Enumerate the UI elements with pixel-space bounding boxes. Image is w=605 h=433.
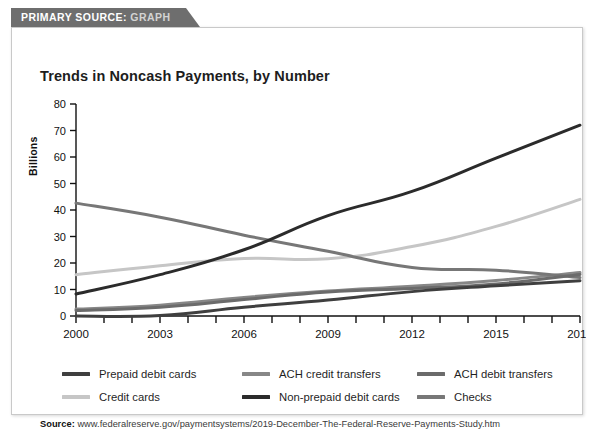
svg-text:10: 10 bbox=[54, 284, 66, 296]
legend-label-non-prepaid-debit-cards: Non-prepaid debit cards bbox=[279, 391, 400, 403]
line-chart: 0102030405060708020002003200620092012201… bbox=[34, 90, 586, 352]
legend-label-checks: Checks bbox=[454, 391, 492, 403]
svg-text:2000: 2000 bbox=[63, 328, 89, 340]
svg-text:2018: 2018 bbox=[567, 328, 586, 340]
svg-text:30: 30 bbox=[54, 231, 66, 243]
chart-plot-area: 0102030405060708020002003200620092012201… bbox=[34, 90, 586, 352]
legend-swatch-ach-debit-transfers bbox=[417, 372, 445, 376]
legend-item-checks[interactable]: Checks bbox=[417, 391, 582, 403]
graph-card: Trends in Noncash Payments, by Number Bi… bbox=[11, 27, 583, 415]
source-url[interactable]: www.federalreserve.gov/paymentsystems/20… bbox=[77, 419, 500, 429]
svg-text:2015: 2015 bbox=[483, 328, 509, 340]
source-label: Source: bbox=[40, 419, 75, 429]
svg-text:0: 0 bbox=[60, 310, 66, 322]
legend-label-ach-debit-transfers: ACH debit transfers bbox=[454, 368, 553, 380]
source-note: Source: www.federalreserve.gov/paymentsy… bbox=[40, 419, 500, 429]
svg-text:2006: 2006 bbox=[231, 328, 257, 340]
legend-item-non-prepaid-debit-cards[interactable]: Non-prepaid debit cards bbox=[242, 391, 417, 403]
legend-label-ach-credit-transfers: ACH credit transfers bbox=[279, 368, 381, 380]
screenshot-root: Trends in Noncash Payments, by Number Bi… bbox=[0, 0, 605, 433]
legend-row-2: Credit cards Non-prepaid debit cards Che… bbox=[62, 385, 582, 408]
legend-swatch-ach-credit-transfers bbox=[242, 372, 270, 376]
legend-item-ach-credit-transfers[interactable]: ACH credit transfers bbox=[242, 368, 417, 380]
ribbon-kind: GRAPH bbox=[130, 11, 170, 23]
legend-swatch-non-prepaid-debit-cards bbox=[242, 395, 270, 399]
ribbon-prefix: PRIMARY SOURCE: bbox=[21, 11, 127, 23]
legend-swatch-credit-cards bbox=[62, 395, 90, 399]
svg-text:2012: 2012 bbox=[399, 328, 425, 340]
svg-text:40: 40 bbox=[54, 204, 66, 216]
legend-label-credit-cards: Credit cards bbox=[99, 391, 160, 403]
svg-text:2003: 2003 bbox=[147, 328, 173, 340]
legend-swatch-prepaid-debit-cards bbox=[62, 372, 90, 376]
svg-text:2009: 2009 bbox=[315, 328, 341, 340]
legend-item-ach-debit-transfers[interactable]: ACH debit transfers bbox=[417, 368, 582, 380]
svg-text:70: 70 bbox=[54, 125, 66, 137]
svg-text:50: 50 bbox=[54, 178, 66, 190]
legend-item-credit-cards[interactable]: Credit cards bbox=[62, 391, 242, 403]
chart-legend: Prepaid debit cards ACH credit transfers… bbox=[62, 362, 582, 408]
page-title: Trends in Noncash Payments, by Number bbox=[40, 68, 330, 84]
svg-text:80: 80 bbox=[54, 98, 66, 110]
legend-label-prepaid-debit-cards: Prepaid debit cards bbox=[99, 368, 196, 380]
primary-source-ribbon: PRIMARY SOURCE: GRAPH bbox=[11, 8, 200, 27]
svg-text:20: 20 bbox=[54, 257, 66, 269]
legend-item-prepaid-debit-cards[interactable]: Prepaid debit cards bbox=[62, 368, 242, 380]
legend-swatch-checks bbox=[417, 395, 445, 399]
legend-row-1: Prepaid debit cards ACH credit transfers… bbox=[62, 362, 582, 385]
svg-text:60: 60 bbox=[54, 151, 66, 163]
